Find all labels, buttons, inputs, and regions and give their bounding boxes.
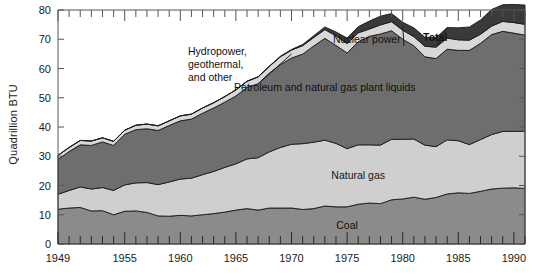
x-tick-label: 1960 xyxy=(168,252,192,264)
hydro-callout-line-2: and other xyxy=(188,71,233,83)
y-tick-label: 60 xyxy=(39,63,51,75)
y-tick-label: 50 xyxy=(39,92,51,104)
x-tick-label: 1965 xyxy=(224,252,248,264)
hydro-callout-line-1: geothermal, xyxy=(188,58,243,70)
x-tick-label: 1975 xyxy=(335,252,359,264)
band-label-petroleum-and-natural-gas-plant-liquids: Petroleum and natural gas plant liquids xyxy=(234,81,416,93)
y-tick-label: 40 xyxy=(39,121,51,133)
band-label-natural-gas: Natural gas xyxy=(331,169,385,181)
y-tick-label: 30 xyxy=(39,150,51,162)
x-tick-label: 1990 xyxy=(502,252,526,264)
y-tick-label: 80 xyxy=(39,4,51,16)
y-tick-label: 10 xyxy=(39,209,51,221)
y-tick-label: 20 xyxy=(39,180,51,192)
x-tick-label: 1955 xyxy=(112,252,136,264)
hydro-callout-line-0: Hydropower, xyxy=(188,45,247,57)
x-tick-label: 1970 xyxy=(279,252,303,264)
x-tick-label: 1949 xyxy=(46,252,70,264)
chart-figure: Quadrillion BTU 010203040506070801949195… xyxy=(0,0,541,278)
stacked-area-chart: 0102030405060708019491955196019651970197… xyxy=(0,0,541,278)
y-tick-label: 0 xyxy=(45,238,51,250)
band-label-coal: Coal xyxy=(336,219,358,231)
x-tick-label: 1985 xyxy=(446,252,470,264)
x-tick-label: 1980 xyxy=(390,252,414,264)
y-tick-label: 70 xyxy=(39,33,51,45)
nuclear-callout-label: Nuclear power xyxy=(333,33,401,45)
